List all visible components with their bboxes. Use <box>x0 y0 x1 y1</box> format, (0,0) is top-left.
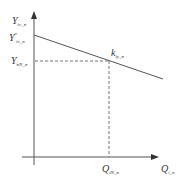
y-point-label: YnN_n <box>11 55 28 67</box>
y-intercept-label: Y*iv_n <box>9 32 25 44</box>
demand-line <box>34 35 163 79</box>
x-axis-arrow-icon <box>151 154 159 160</box>
line-slope-label: kiy_n <box>111 47 125 59</box>
line-graph-diagram: Yiv_n Y*iv_n YnN_n kiy_n QiN_n Qi_n <box>0 0 189 184</box>
y-axis-label: Yiv_n <box>12 15 27 27</box>
x-axis-label: Qi_n <box>161 163 175 175</box>
y-axis-arrow-icon <box>31 11 37 19</box>
x-point-label: QiN_n <box>102 163 119 175</box>
